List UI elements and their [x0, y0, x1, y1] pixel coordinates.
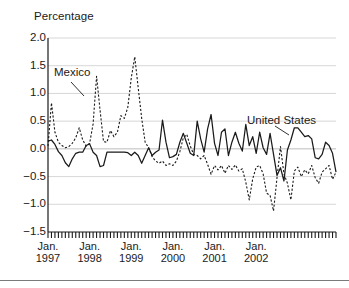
data-series-layer [48, 57, 336, 211]
x-tick-year: 2001 [192, 252, 238, 264]
annotation-leader-lines [71, 82, 289, 135]
series-annotation-mexico: Mexico [54, 66, 90, 78]
x-tick-label: Jan.1998 [67, 240, 113, 264]
x-tick-label: Jan.1997 [25, 240, 71, 264]
x-tick-month: Jan. [233, 240, 279, 252]
footer-rule [0, 280, 349, 281]
x-tick-year: 1997 [25, 252, 71, 264]
x-tick-label: Jan.2002 [233, 240, 279, 264]
x-tick-year: 1999 [108, 252, 154, 264]
x-tick-month: Jan. [25, 240, 71, 252]
x-tick-year: 2002 [233, 252, 279, 264]
x-axis-ticks [48, 232, 336, 238]
x-tick-year: 1998 [67, 252, 113, 264]
x-tick-label: Jan.2001 [192, 240, 238, 264]
x-tick-month: Jan. [108, 240, 154, 252]
series-annotation-united-states: United States [247, 114, 316, 126]
x-tick-year: 2000 [150, 252, 196, 264]
x-tick-month: Jan. [67, 240, 113, 252]
chart-figure: Percentage 2.01.51.00.50.0−0.5−1.0−1.5 M… [0, 0, 349, 288]
x-tick-label: Jan.1999 [108, 240, 154, 264]
x-tick-month: Jan. [150, 240, 196, 252]
x-tick-month: Jan. [192, 240, 238, 252]
x-tick-label: Jan.2000 [150, 240, 196, 264]
